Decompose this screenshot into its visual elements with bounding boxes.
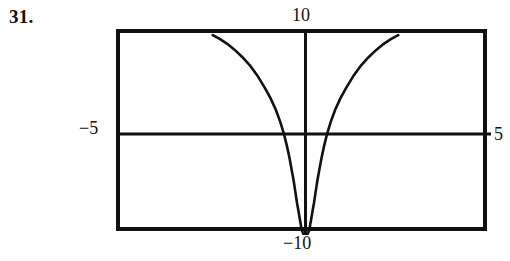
window-label-ymax: 10 (292, 6, 310, 24)
plot-area (120, 33, 491, 235)
window-label-ymin: −10 (283, 234, 311, 252)
problem-number: 31. (9, 7, 33, 26)
graph-svg (120, 33, 491, 235)
graphing-calculator-viewing-window (116, 29, 487, 231)
figure-root: 31. 10 −10 −5 5 (0, 0, 510, 261)
window-label-xmin: −5 (79, 119, 98, 137)
window-label-xmax: 5 (494, 125, 503, 143)
